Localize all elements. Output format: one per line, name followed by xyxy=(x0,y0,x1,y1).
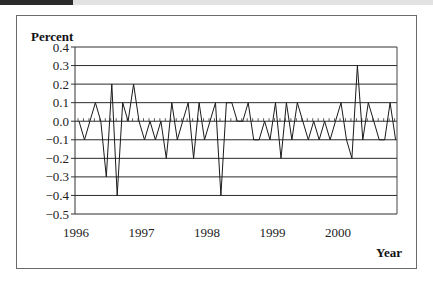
y-tick-label: 0.0 xyxy=(53,114,69,129)
line-chart: 0.40.30.20.10.0−0.1−0.2−0.3−0.4−0.5 1996… xyxy=(0,0,433,285)
y-tick-label: −0.2 xyxy=(45,151,69,166)
x-tick-label: 1999 xyxy=(260,225,286,240)
y-tick-label: −0.3 xyxy=(45,169,69,184)
gridlines xyxy=(75,47,397,214)
y-tick-label: 0.1 xyxy=(53,95,69,110)
x-tick-label: 1996 xyxy=(63,225,90,240)
x-tick-label: 1998 xyxy=(194,225,220,240)
y-tick-label: −0.4 xyxy=(45,188,69,203)
x-axis-title: Year xyxy=(376,245,402,260)
y-tick-label: −0.5 xyxy=(45,207,69,222)
y-axis: 0.40.30.20.10.0−0.1−0.2−0.3−0.4−0.5 xyxy=(45,40,75,222)
x-tick-label: 1997 xyxy=(129,225,156,240)
y-tick-label: 0.2 xyxy=(53,77,69,92)
series-line xyxy=(79,66,396,196)
y-tick-label: −0.1 xyxy=(45,132,69,147)
y-axis-title: Percent xyxy=(31,29,74,44)
x-axis: 19961997199819992000 xyxy=(63,225,351,240)
x-tick-label: 2000 xyxy=(325,225,351,240)
y-tick-label: 0.3 xyxy=(53,58,69,73)
